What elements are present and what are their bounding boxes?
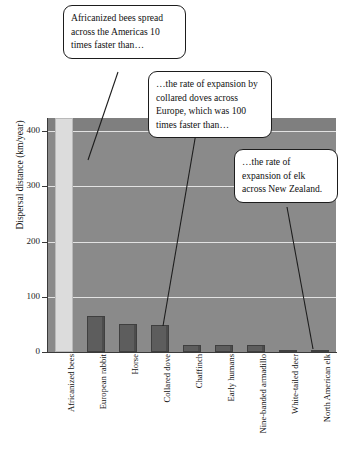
- y-tick-label-400: 400: [27, 126, 41, 135]
- callout-elk: …the rate of expansion of elk across New…: [234, 149, 338, 203]
- callout-collared-dove: …the rate of expansion by collared doves…: [148, 71, 272, 138]
- bar-white-tailed-deer[interactable]: [279, 350, 297, 352]
- y-tick-mark-0: [42, 352, 47, 353]
- y-tick-mark-100: [42, 297, 47, 298]
- y-tick-label-0: 0: [36, 347, 41, 356]
- x-label-collared-dove: Collared dove: [163, 354, 172, 402]
- bar-nine-banded-armadillo[interactable]: [247, 345, 265, 352]
- x-label-white-tailed-deer: White-tailed deer: [291, 354, 300, 414]
- x-label-horse: Horse: [131, 354, 140, 375]
- x-label-africanized-bees: Africanized bees: [67, 354, 76, 412]
- y-tick-label-100: 100: [27, 292, 41, 301]
- callout-bees: Africanized bees spread across the Ameri…: [63, 5, 186, 59]
- x-label-nine-banded-armadillo: Nine-banded armadillo: [259, 354, 268, 433]
- y-tick-mark-300: [42, 186, 47, 187]
- y-axis-title: Dispersal distance (km/year): [15, 95, 25, 255]
- x-label-north-american-elk: North American elk: [323, 354, 332, 422]
- y-tick-label-300: 300: [27, 181, 41, 190]
- bar-north-american-elk[interactable]: [311, 350, 329, 352]
- x-axis-labels: Africanized bees European rabbit Horse C…: [48, 354, 336, 458]
- chart-root: Dispersal distance (km/year) 400 300 200…: [0, 0, 343, 458]
- x-label-european-rabbit: European rabbit: [99, 354, 108, 409]
- x-label-early-humans: Early humans: [227, 354, 236, 402]
- y-tick-label-200: 200: [27, 237, 41, 246]
- bar-collared-dove[interactable]: [151, 325, 169, 352]
- bar-horse[interactable]: [119, 324, 137, 352]
- bar-africanized-bees[interactable]: [55, 118, 73, 352]
- bar-european-rabbit[interactable]: [87, 316, 105, 352]
- bar-early-humans[interactable]: [215, 345, 233, 352]
- bar-chaffinch[interactable]: [183, 345, 201, 352]
- y-tick-mark-200: [42, 242, 47, 243]
- x-axis-line: [47, 352, 337, 353]
- y-tick-mark-400: [42, 131, 47, 132]
- x-label-chaffinch: Chaffinch: [195, 354, 204, 388]
